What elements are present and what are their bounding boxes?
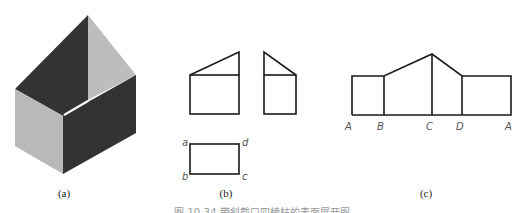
dev-label-a-right: A [504, 121, 512, 132]
top-view-rect [190, 144, 239, 174]
dev-label-a-left: A [344, 121, 352, 132]
top-view: a d b c [182, 137, 249, 182]
front-view-rect [190, 75, 239, 114]
panel-a-isometric: (a) [15, 15, 136, 200]
panel-b-label: (b) [220, 187, 233, 200]
front-view [190, 52, 239, 114]
dev-label-b: B [377, 121, 384, 132]
vertex-label-d: d [242, 137, 249, 148]
side-view-rect [264, 75, 296, 114]
dev-label-d: D [456, 121, 464, 132]
panel-b-orthographic: a d b c (b) [182, 52, 296, 200]
dev-label-c: C [426, 121, 433, 132]
figure-caption: 图 10-34 带斜截口四棱柱的表面展开图 [174, 206, 349, 213]
panel-c-label: (c) [420, 187, 433, 200]
figure-canvas: (a) a d b c (b) A B C D A (c [0, 0, 522, 213]
panel-a-label: (a) [58, 187, 71, 200]
vertex-label-b: b [182, 171, 188, 182]
side-view [264, 52, 296, 114]
vertex-label-a: a [182, 137, 188, 148]
panel-c-development: A B C D A (c) [344, 54, 512, 200]
side-view-slope [264, 52, 296, 75]
vertex-label-c: c [242, 171, 248, 182]
front-view-slope [190, 52, 239, 75]
